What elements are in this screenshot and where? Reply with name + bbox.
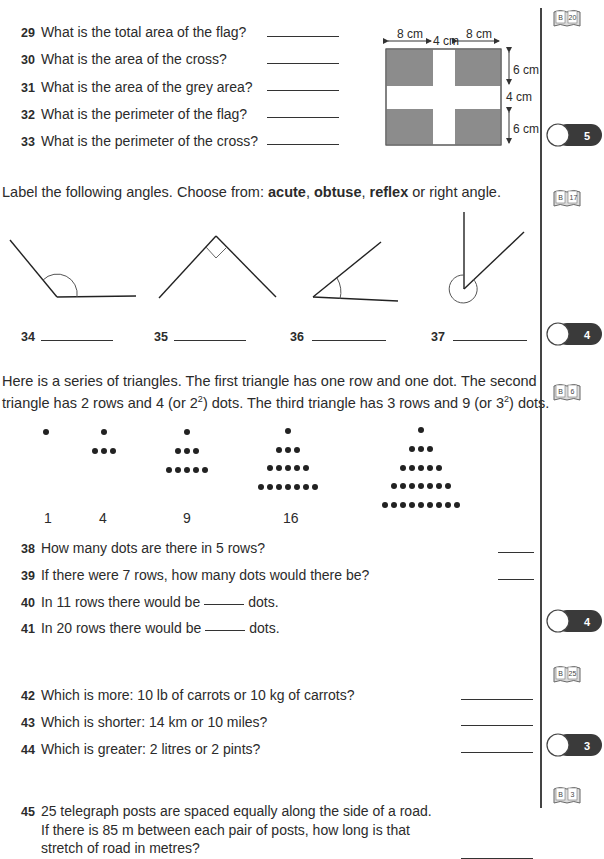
answer-line-31[interactable]: [267, 90, 339, 91]
svg-text:B: B: [558, 670, 563, 677]
dot-triangles: [0, 420, 500, 510]
answer-line-34[interactable]: [41, 340, 113, 341]
answer-blank-41[interactable]: [205, 630, 245, 631]
question-42: 42Which is more: 10 lb of carrots or 10 …: [21, 687, 354, 704]
svg-text:B: B: [558, 14, 563, 21]
triangles-intro: Here is a series of triangles. The first…: [2, 372, 549, 412]
svg-text:6: 6: [571, 388, 575, 395]
question-36: 36: [290, 328, 310, 345]
answer-line-43[interactable]: [461, 725, 533, 726]
answer-line-44[interactable]: [461, 752, 533, 753]
question-45: 4525 telegraph posts are spaced equally …: [21, 802, 432, 857]
answer-line-38[interactable]: [498, 552, 534, 553]
label-6cm-upper: 6 cm: [513, 63, 539, 77]
question-33: 33What is the perimeter of the cross?: [21, 133, 258, 150]
question-41: 41In 20 rows there would bedots.: [21, 620, 280, 637]
svg-text:B: B: [558, 388, 563, 395]
question-43: 43Which is shorter: 14 km or 10 miles?: [21, 714, 267, 731]
count-label-9: 9: [183, 510, 191, 526]
svg-text:4: 4: [584, 616, 591, 628]
angles-instruction: Label the following angles. Choose from:…: [2, 183, 501, 201]
svg-text:B: B: [558, 791, 563, 798]
book-reference-icon: B 20: [552, 8, 582, 30]
score-box[interactable]: 3: [546, 733, 604, 757]
svg-text:25: 25: [569, 670, 577, 677]
answer-line-33[interactable]: [267, 144, 339, 145]
answer-line-32[interactable]: [267, 117, 339, 118]
question-31: 31What is the area of the grey area?: [21, 79, 253, 96]
obtuse-angle-figure: [10, 240, 136, 297]
answer-line-35[interactable]: [174, 340, 246, 341]
book-reference-icon: B 3: [552, 785, 582, 807]
question-32: 32What is the perimeter of the flag?: [21, 106, 247, 123]
question-35: 35: [154, 328, 174, 345]
score-box[interactable]: 5: [546, 123, 604, 147]
svg-text:20: 20: [569, 14, 577, 21]
question-39: 39If there were 7 rows, how many dots wo…: [21, 567, 369, 584]
book-reference-icon: B 17: [552, 188, 582, 210]
flag-diagram: 8 cm 4 cm 8 cm 6 cm 4 cm 6 cm: [380, 25, 540, 155]
question-30: 30What is the area of the cross?: [21, 51, 227, 68]
count-label-1: 1: [44, 510, 52, 526]
svg-text:4: 4: [584, 329, 591, 341]
label-4cm-top: 4 cm: [433, 34, 459, 48]
answer-line-39[interactable]: [498, 579, 534, 580]
reflex-angle-figure: [449, 212, 524, 303]
label-4cm-side: 4 cm: [506, 90, 532, 104]
score-box[interactable]: 4: [546, 322, 604, 346]
svg-text:3: 3: [571, 791, 575, 798]
book-reference-icon: B 25: [552, 664, 582, 686]
question-38: 38How many dots are there in 5 rows?: [21, 540, 265, 557]
score-box[interactable]: 4: [546, 609, 604, 633]
label-6cm-lower: 6 cm: [513, 122, 539, 136]
svg-text:3: 3: [584, 740, 590, 752]
answer-line-29[interactable]: [267, 36, 339, 37]
question-29: 29What is the total area of the flag?: [21, 24, 246, 41]
right-angle-figure: [159, 236, 276, 298]
answer-line-42[interactable]: [461, 699, 533, 700]
question-34: 34: [21, 328, 41, 345]
label-8cm-right: 8 cm: [466, 27, 492, 41]
svg-text:5: 5: [584, 130, 590, 142]
answer-line-30[interactable]: [267, 63, 339, 64]
answer-blank-40[interactable]: [204, 604, 244, 605]
question-37: 37: [431, 328, 451, 345]
question-40: 40In 11 rows there would bedots.: [21, 594, 279, 611]
label-8cm-left: 8 cm: [397, 27, 423, 41]
angle-diagrams: [0, 200, 540, 310]
count-label-16: 16: [283, 510, 299, 526]
answer-line-36[interactable]: [312, 340, 386, 341]
svg-text:17: 17: [570, 194, 578, 201]
question-44: 44Which is greater: 2 litres or 2 pints?: [21, 741, 260, 758]
answer-line-37[interactable]: [453, 340, 527, 341]
count-label-4: 4: [99, 510, 107, 526]
svg-text:B: B: [558, 194, 563, 201]
book-reference-icon: B 6: [552, 382, 582, 404]
acute-angle-figure: [313, 242, 398, 301]
